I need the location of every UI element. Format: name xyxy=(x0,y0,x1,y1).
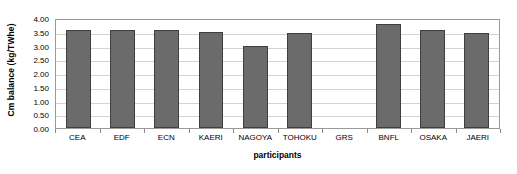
bar[interactable] xyxy=(154,30,179,128)
bar-slot xyxy=(277,20,321,128)
x-axis-tick-label: EDF xyxy=(100,133,145,147)
y-axis-tick-label: 2.50 xyxy=(33,56,49,65)
y-axis-tick-label: 4.00 xyxy=(33,15,49,24)
x-axis-tick xyxy=(500,129,501,133)
bar-chart: Cm balance (kg/TWhe) 4.003.503.002.502.0… xyxy=(0,0,517,174)
x-axis-tick-labels: CEAEDFECNKAERINAGOYATOHOKUGRSBNFLOSAKAJA… xyxy=(55,133,500,147)
y-axis-tick-label: 2.00 xyxy=(33,70,49,79)
bar[interactable] xyxy=(110,30,135,128)
bar[interactable] xyxy=(287,33,312,128)
x-axis-tick-label: GRS xyxy=(322,133,367,147)
y-axis-tick-label: 1.50 xyxy=(33,83,49,92)
bar-slot xyxy=(233,20,277,128)
y-axis-tick-label: 3.50 xyxy=(33,28,49,37)
bar[interactable] xyxy=(199,32,224,128)
bar-slot xyxy=(410,20,454,128)
x-axis-tick-label: OSAKA xyxy=(411,133,456,147)
bar-slot xyxy=(366,20,410,128)
y-axis-tick-label: 0.00 xyxy=(33,125,49,134)
y-axis-tick-label: 0.50 xyxy=(33,111,49,120)
y-axis-tick-label: 3.00 xyxy=(33,42,49,51)
x-axis-tick-label: CEA xyxy=(55,133,100,147)
bars-layer xyxy=(56,20,499,128)
x-axis-tick-label: ECN xyxy=(144,133,189,147)
bar[interactable] xyxy=(420,30,445,128)
bar[interactable] xyxy=(66,30,91,128)
x-axis-title: participants xyxy=(55,150,500,160)
bar[interactable] xyxy=(376,24,401,129)
bar-slot xyxy=(100,20,144,128)
bar-slot xyxy=(189,20,233,128)
x-axis-tick-label: TOHOKU xyxy=(278,133,323,147)
y-axis-title: Cm balance (kg/TWhe) xyxy=(0,0,22,140)
bar-slot xyxy=(322,20,366,128)
bar[interactable] xyxy=(464,33,489,128)
y-axis-title-text: Cm balance (kg/TWhe) xyxy=(6,23,16,116)
plot-area xyxy=(55,19,500,129)
x-axis-tick-label: NAGOYA xyxy=(233,133,278,147)
x-axis-tick-label: KAERI xyxy=(189,133,234,147)
bar[interactable] xyxy=(243,46,268,129)
x-axis-tick-label: BNFL xyxy=(367,133,412,147)
bar-slot xyxy=(145,20,189,128)
bar-slot xyxy=(455,20,499,128)
x-axis-tick-label: JAERI xyxy=(456,133,501,147)
y-axis-tick-labels: 4.003.503.002.502.001.501.000.500.00 xyxy=(22,19,52,129)
y-axis-tick-label: 1.00 xyxy=(33,97,49,106)
bar-slot xyxy=(56,20,100,128)
